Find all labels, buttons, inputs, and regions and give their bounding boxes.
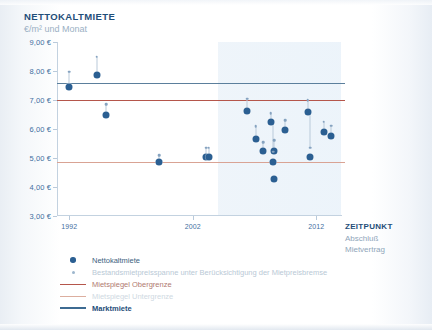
data-point-nettokaltmiete <box>304 109 311 116</box>
data-point-nettokaltmiete <box>252 136 259 143</box>
x-axis-tick-label: 1992 <box>61 223 77 230</box>
chart-page: NETTOKALTMIETE €/m² und Monat 3,00 €4,00… <box>0 0 432 330</box>
data-point-bestandsmietpreisspanne <box>306 99 309 102</box>
y-axis-tick-label: 3,00 € <box>30 212 51 221</box>
legend-marker <box>60 284 86 285</box>
x-axis-caption: ZEITPUNKT Abschluß Mietvertrag <box>345 222 393 255</box>
legend-label: Mietspiegel Obergrenze <box>86 280 172 289</box>
reference-line-unter <box>57 162 345 163</box>
data-point-bestandsmietpreisspanne <box>272 150 275 153</box>
x-axis-tick <box>316 216 317 220</box>
data-point-nettokaltmiete <box>267 118 274 125</box>
data-point-bestandsmietpreisspanne <box>208 147 211 150</box>
y-axis-tick <box>53 129 57 130</box>
data-point-bestandsmietpreisspanne <box>105 103 108 106</box>
data-point-bestandsmietpreisspanne <box>273 139 276 142</box>
x-axis-line <box>57 215 342 216</box>
y-axis-tick-label: 7,00 € <box>30 96 51 105</box>
data-point-nettokaltmiete <box>66 83 73 90</box>
legend-item[interactable]: Marktmiete <box>60 302 380 314</box>
legend-label: Marktmiete <box>86 304 132 313</box>
legend-line-icon <box>60 307 86 308</box>
y-axis-tick-label: 5,00 € <box>30 154 51 163</box>
data-point-bestandsmietpreisspanne <box>330 124 333 127</box>
plot-area: 3,00 €4,00 €5,00 €6,00 €7,00 €8,00 €9,00… <box>57 42 341 216</box>
data-point-nettokaltmiete <box>320 129 327 136</box>
chart-subtitle: €/m² und Monat <box>24 23 115 35</box>
legend-marker <box>60 271 86 274</box>
legend-marker <box>60 296 86 297</box>
reference-line-market <box>57 83 345 84</box>
data-point-nettokaltmiete <box>271 175 278 182</box>
legend-line-icon <box>60 284 86 285</box>
y-axis-tick-label: 9,00 € <box>30 38 51 47</box>
data-point-nettokaltmiete <box>244 107 251 114</box>
x-axis-tick-label: 2012 <box>308 223 324 230</box>
x-axis-tick-label: 2002 <box>185 223 201 230</box>
x-axis-caption-line2: Abschluß <box>345 233 393 244</box>
y-axis-tick-label: 8,00 € <box>30 67 51 76</box>
legend-item[interactable]: Nettokaltmiete <box>60 254 380 266</box>
legend-dot-icon <box>70 257 76 263</box>
data-point-bestandsmietpreisspanne <box>262 141 265 144</box>
data-point-nettokaltmiete <box>103 112 110 119</box>
y-axis-tick <box>53 216 57 217</box>
data-point-nettokaltmiete <box>260 147 267 154</box>
reference-line-ober <box>57 100 345 101</box>
legend-item[interactable]: Bestandsmietpreisspanne unter Berücksich… <box>60 266 380 278</box>
x-axis-tick <box>69 216 70 220</box>
data-point-bestandsmietpreisspanne <box>269 112 272 115</box>
data-point-bestandsmietpreisspanne <box>68 71 71 74</box>
x-axis-caption-title: ZEITPUNKT <box>345 222 393 231</box>
y-axis-tick <box>53 71 57 72</box>
y-axis-tick <box>53 158 57 159</box>
data-point-bestandsmietpreisspanne <box>158 154 161 157</box>
chart-legend: NettokaltmieteBestandsmietpreisspanne un… <box>60 254 380 314</box>
y-axis-tick-label: 6,00 € <box>30 125 51 134</box>
data-point-nettokaltmiete <box>282 126 289 133</box>
legend-item[interactable]: Mietspiegel Obergrenze <box>60 278 380 290</box>
data-point-bestandsmietpreisspanne <box>255 125 258 128</box>
legend-marker <box>60 257 86 263</box>
legend-marker <box>60 307 86 308</box>
data-point-nettokaltmiete <box>270 159 277 166</box>
data-point-nettokaltmiete <box>156 158 163 165</box>
legend-item[interactable]: Mietspiegel Untergrenze <box>60 290 380 302</box>
range-whisker <box>310 112 311 147</box>
data-point-nettokaltmiete <box>328 133 335 140</box>
data-point-bestandsmietpreisspanne <box>309 147 312 150</box>
legend-label: Mietspiegel Untergrenze <box>86 292 173 301</box>
page-title: NETTOKALTMIETE <box>24 11 115 22</box>
data-point-nettokaltmiete <box>93 72 100 79</box>
chart-title-block: NETTOKALTMIETE €/m² und Monat <box>24 11 115 35</box>
y-axis-tick-label: 4,00 € <box>30 183 51 192</box>
legend-label: Bestandsmietpreisspanne unter Berücksich… <box>86 268 327 277</box>
y-axis-tick <box>53 42 57 43</box>
data-point-nettokaltmiete <box>205 153 212 160</box>
legend-line-icon <box>60 296 86 297</box>
data-point-bestandsmietpreisspanne <box>284 119 287 122</box>
y-axis-line <box>57 42 58 216</box>
data-point-bestandsmietpreisspanne <box>322 120 325 123</box>
x-axis-tick <box>193 216 194 220</box>
data-point-nettokaltmiete <box>307 154 314 161</box>
legend-label: Nettokaltmiete <box>86 256 140 265</box>
y-axis-tick <box>53 187 57 188</box>
data-point-bestandsmietpreisspanne <box>246 97 249 100</box>
legend-small-dot-icon <box>72 271 75 274</box>
data-point-bestandsmietpreisspanne <box>95 55 98 58</box>
